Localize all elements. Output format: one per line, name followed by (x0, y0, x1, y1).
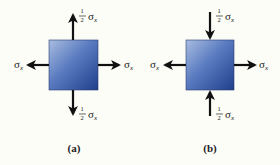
sigma-bottom-b: σx (225, 108, 235, 122)
sigma-right-a: σx (124, 58, 134, 72)
label-top-a-num: 1 (81, 7, 84, 14)
caption-b: (b) (190, 142, 230, 154)
label-bottom-a-den: 2 (81, 114, 84, 121)
sigma-top-b: σx (225, 10, 235, 24)
sigma-bottom-a: σx (88, 108, 98, 122)
sigma-right-b: σx (259, 58, 269, 72)
sigma-left-a: σx (14, 58, 24, 72)
stress-diagram: 1 2 1 2 1 2 1 2 σx σx σx σx σx σx σx σx (0, 0, 280, 165)
sigma-top-a: σx (88, 10, 98, 24)
label-bottom-b-den: 2 (218, 114, 221, 121)
label-bottom-a-num: 1 (81, 105, 84, 112)
stress-element-a (49, 40, 98, 90)
label-bottom-b-num: 1 (218, 105, 221, 112)
sigma-left-b: σx (150, 58, 160, 72)
stress-element-b (186, 40, 234, 90)
panel-b (165, 12, 255, 116)
label-top-a-den: 2 (81, 16, 84, 23)
label-top-b-den: 2 (218, 16, 221, 23)
caption-a: (a) (54, 142, 94, 154)
panel-a (28, 15, 119, 114)
label-top-b-num: 1 (218, 7, 221, 14)
